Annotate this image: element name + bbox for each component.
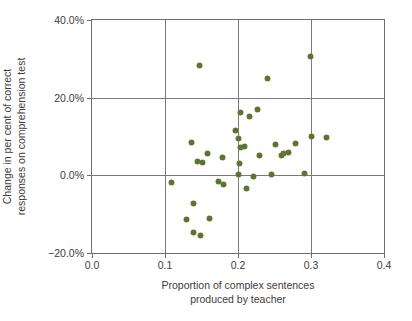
data-point: [220, 155, 225, 160]
data-point: [236, 136, 241, 141]
y-axis-title-line2: responses on comprehension test: [14, 19, 28, 254]
data-point: [324, 135, 329, 140]
x-axis-title: Proportion of complex sentences produced…: [91, 278, 385, 306]
data-point: [238, 110, 243, 115]
data-point: [195, 159, 200, 164]
x-tick-label: 0.4: [377, 259, 392, 271]
data-point: [191, 201, 196, 206]
data-point: [302, 171, 307, 176]
x-gridline: [165, 20, 166, 253]
data-point: [205, 151, 210, 156]
y-tick-label: 20.0%: [54, 92, 84, 104]
x-tick-label: 0.3: [304, 259, 319, 271]
data-point: [184, 217, 189, 222]
y-tick-mark: [87, 253, 92, 254]
data-point: [169, 180, 174, 185]
x-tick-mark: [311, 253, 312, 258]
y-tick-mark: [87, 98, 92, 99]
x-tick-mark: [92, 253, 93, 258]
data-point: [251, 174, 256, 179]
data-point: [242, 144, 247, 149]
y-axis-title-line1: Change in per cent of correct: [0, 19, 14, 254]
data-point: [189, 140, 194, 145]
x-tick-label: 0.2: [231, 259, 246, 271]
data-point: [200, 160, 205, 165]
data-point: [236, 172, 241, 177]
x-tick-mark: [384, 253, 385, 258]
y-gridline: [92, 98, 384, 99]
y-tick-label: 40.0%: [54, 14, 84, 26]
data-point: [191, 230, 196, 235]
data-point: [265, 76, 270, 81]
plot-area: 0.00.10.20.30.440.0%20.0%0.0%−20.0%: [91, 19, 385, 254]
x-tick-mark: [165, 253, 166, 258]
x-axis-title-line1: Proportion of complex sentences: [91, 278, 385, 292]
x-axis-title-line2: produced by teacher: [91, 292, 385, 306]
data-point: [221, 182, 226, 187]
data-point: [308, 54, 313, 59]
data-point: [269, 172, 274, 177]
data-point: [286, 150, 291, 155]
data-point: [273, 142, 278, 147]
y-tick-label: −20.0%: [48, 247, 84, 259]
data-point: [257, 153, 262, 158]
data-point: [309, 134, 314, 139]
data-point: [244, 186, 249, 191]
data-point: [247, 114, 252, 119]
y-tick-mark: [87, 20, 92, 21]
y-tick-mark: [87, 175, 92, 176]
data-point: [237, 161, 242, 166]
data-point: [207, 216, 212, 221]
data-point: [279, 153, 284, 158]
data-point: [198, 233, 203, 238]
x-tick-mark: [238, 253, 239, 258]
data-point: [197, 63, 202, 68]
y-axis-title: Change in per cent of correct responses …: [0, 19, 28, 254]
data-point: [255, 107, 260, 112]
y-tick-label: 0.0%: [60, 169, 84, 181]
data-point: [293, 141, 298, 146]
scatter-chart: 0.00.10.20.30.440.0%20.0%0.0%−20.0% Prop…: [0, 0, 412, 321]
x-tick-label: 0.0: [85, 259, 100, 271]
x-tick-label: 0.1: [158, 259, 173, 271]
